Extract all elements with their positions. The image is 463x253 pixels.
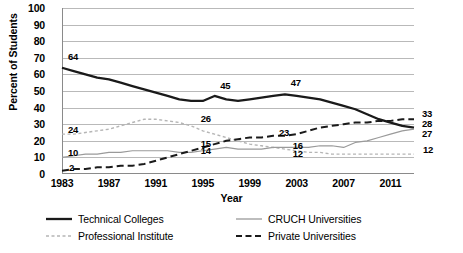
x-axis-title: Year [0, 192, 463, 204]
x-axis-tick: 1987 [86, 177, 132, 189]
legend-line-icon [46, 214, 72, 224]
data-point-label: 28 [422, 119, 432, 128]
legend-line-icon [46, 231, 72, 241]
legend-line-icon [236, 214, 262, 224]
y-axis-tick: 100 [15, 3, 45, 13]
data-point-label: 47 [291, 78, 301, 87]
y-axis-tick: 70 [15, 53, 45, 63]
plot-area: 6445472426101416215231233282712 [62, 8, 414, 174]
legend-item[interactable]: CRUCH Universities [236, 213, 426, 225]
legend-label: CRUCH Universities [268, 213, 361, 225]
data-point-label: 2 [69, 163, 74, 172]
series-line [62, 119, 414, 170]
data-point-label: 64 [68, 52, 78, 61]
data-point-label: 33 [422, 109, 432, 118]
data-point-label: 12 [293, 149, 303, 158]
series-line [62, 68, 414, 128]
legend-label: Private Universities [268, 230, 356, 242]
legend-line-icon [236, 231, 262, 241]
legend-label: Technical Colleges [78, 213, 164, 225]
x-axis-tick: 2003 [274, 177, 320, 189]
data-point-label: 45 [220, 81, 230, 90]
data-point-label: 10 [68, 148, 78, 157]
data-point-label: 24 [68, 125, 78, 134]
x-axis-tick: 1995 [180, 177, 226, 189]
chart-legend: Technical CollegesCRUCH UniversitiesProf… [46, 213, 426, 242]
data-point-label: 26 [201, 114, 211, 123]
legend-item[interactable]: Professional Institute [46, 230, 236, 242]
legend-item[interactable]: Private Universities [236, 230, 426, 242]
x-axis-tick: 2011 [368, 177, 414, 189]
x-axis-tick: 1983 [39, 177, 85, 189]
series-lines [62, 8, 414, 174]
data-point-label: 12 [423, 145, 433, 154]
y-axis-tick: 60 [15, 69, 45, 79]
line-chart: Percent of Students 10090807060504030201… [0, 0, 463, 253]
y-axis-tick: 50 [15, 86, 45, 96]
x-axis-tick: 2007 [321, 177, 367, 189]
x-axis-tick: 1999 [227, 177, 273, 189]
series-line [62, 129, 414, 157]
y-axis-tick: 30 [15, 119, 45, 129]
data-point-label: 15 [201, 139, 211, 148]
legend-label: Professional Institute [78, 230, 173, 242]
y-axis-tick: 80 [15, 36, 45, 46]
legend-item[interactable]: Technical Colleges [46, 213, 236, 225]
data-point-label: 27 [422, 129, 432, 138]
data-point-label: 23 [279, 128, 289, 137]
y-axis-tick: 90 [15, 20, 45, 30]
x-axis-tick: 1991 [133, 177, 179, 189]
y-axis-tick: 40 [15, 103, 45, 113]
y-axis-tick: 20 [15, 136, 45, 146]
y-axis-tick: 10 [15, 152, 45, 162]
